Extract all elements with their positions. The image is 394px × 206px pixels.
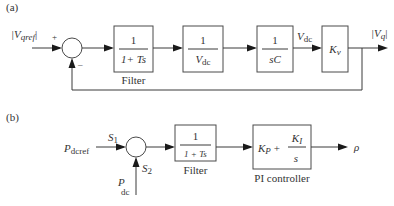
- pi-caption: PI controller: [254, 172, 310, 184]
- block-diagram: (a) |Vqref| + – 1 1+ Ts Filter 1 Vdc: [0, 0, 394, 206]
- filter-denominator: 1 + Ts: [184, 149, 207, 159]
- minus-sign: –: [77, 59, 83, 69]
- s2-label: S2: [142, 162, 152, 176]
- output-label-rho: ρ: [353, 141, 359, 153]
- arrow-icon: [52, 45, 62, 52]
- integrator-block: 1 sC: [257, 26, 293, 72]
- filter-numerator: 1: [193, 130, 199, 142]
- arrow-icon: [69, 58, 76, 68]
- arrow-icon: [312, 45, 322, 52]
- output-label-vq: |Vq|: [371, 27, 387, 41]
- signal-label-vdc: Vdc: [297, 30, 312, 44]
- diagram-a: (a) |Vqref| + – 1 1+ Ts Filter 1 Vdc: [6, 1, 388, 90]
- arrow-icon: [378, 45, 388, 52]
- filter-block-b: 1 1 + Ts Filter: [175, 125, 216, 176]
- s1-label: S1: [108, 131, 118, 145]
- summing-junction-a: [62, 38, 82, 58]
- filter-caption: Filter: [122, 74, 146, 86]
- arrow-icon: [165, 144, 175, 151]
- plus-sign: +: [52, 32, 57, 42]
- filter-block-a: 1 1+ Ts Filter: [114, 26, 153, 86]
- pi-controller-block: KP+ KI s PI controller: [253, 125, 311, 184]
- panel-label-a: (a): [6, 1, 19, 14]
- inverse-vdc-block: 1 Vdc: [183, 26, 223, 72]
- diagram-b: (b) Pdcref S1 S2 Pdc 1 1 + Ts Filter: [6, 111, 359, 197]
- arrow-icon: [173, 45, 183, 52]
- feedback-label-pdc: Pdc: [117, 176, 130, 197]
- inv-vdc-numerator: 1: [200, 34, 206, 46]
- integrator-denominator: sC: [269, 53, 281, 65]
- arrow-icon: [243, 144, 253, 151]
- summing-junction-b: [126, 137, 146, 157]
- arrow-icon: [133, 157, 140, 167]
- input-label-vqref: |Vqref|: [11, 28, 37, 42]
- input-label-pdcref: Pdcref: [63, 142, 89, 156]
- gain-block-kv: Kv: [322, 26, 348, 72]
- ki-denominator: s: [294, 152, 298, 164]
- panel-label-b: (b): [6, 111, 19, 124]
- filter-caption: Filter: [184, 164, 208, 176]
- arrow-icon: [104, 45, 114, 52]
- arrow-icon: [338, 144, 348, 151]
- filter-denominator: 1+ Ts: [121, 53, 146, 65]
- integrator-numerator: 1: [272, 34, 278, 46]
- filter-numerator: 1: [131, 34, 137, 46]
- arrow-icon: [247, 45, 257, 52]
